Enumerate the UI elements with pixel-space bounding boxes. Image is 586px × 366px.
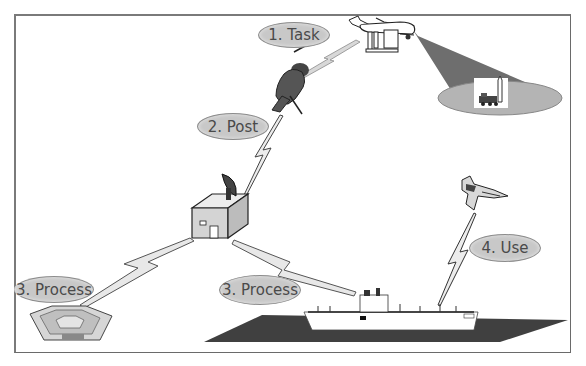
ship-icon (304, 288, 478, 330)
label-process-left: 3. Process (14, 276, 94, 303)
pentagon-icon (30, 306, 112, 340)
soldier-icon (272, 40, 316, 114)
link-ship-fighter (438, 213, 476, 306)
label-use: 4. Use (469, 234, 541, 262)
target-launcher-icon (474, 76, 508, 108)
link-station-pentagon (80, 238, 194, 308)
uav-icon (349, 16, 415, 52)
label-post: 2. Post (197, 113, 269, 140)
label-process-center: 3. Process (219, 275, 301, 305)
fighter-jet-icon (462, 176, 508, 210)
label-task: 1. Task (258, 22, 330, 48)
ground-station-icon (192, 174, 248, 238)
diagram-canvas (0, 0, 586, 366)
